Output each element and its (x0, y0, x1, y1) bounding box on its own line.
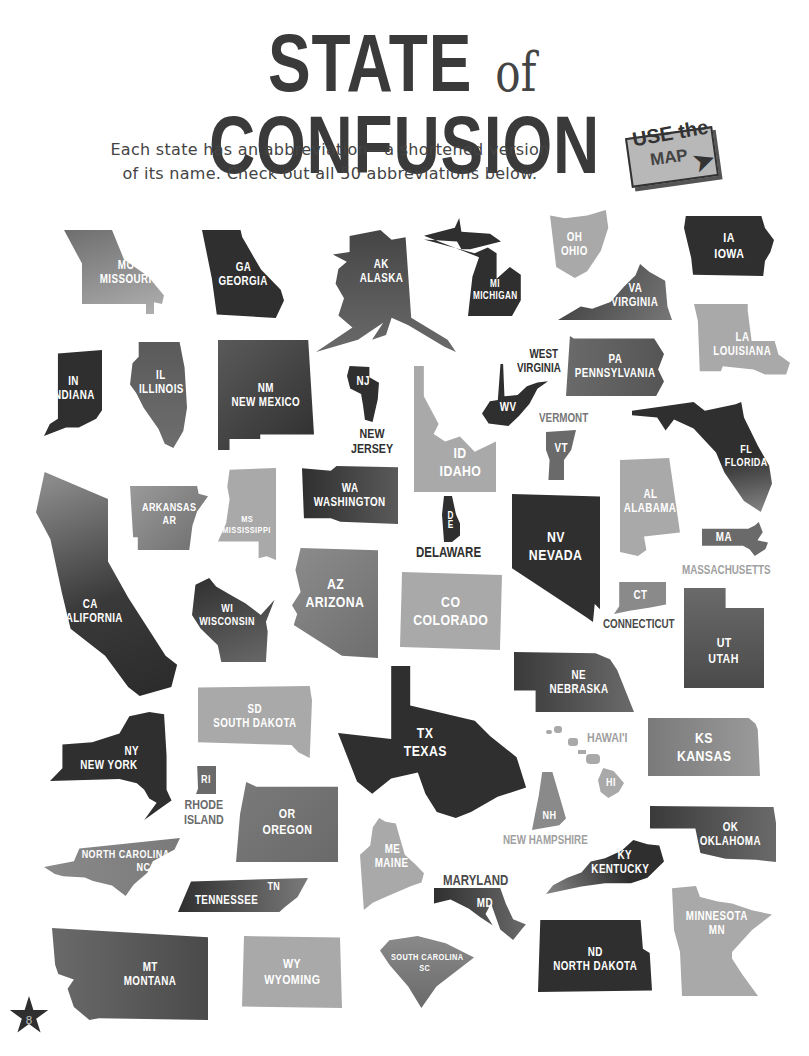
state-name: MISSISSIPPI (223, 525, 271, 536)
state-abbr: AK (373, 257, 388, 271)
state-north-dakota: ND NORTH DAKOTA (538, 920, 652, 992)
state-abbr: TN (268, 880, 281, 893)
state-abbr: FL (740, 443, 752, 456)
virginia-shape (558, 264, 672, 320)
hawaii-islands-icon (546, 726, 602, 770)
state-abbr: NY (125, 744, 139, 758)
rhode-island-label: RHODE ISLAND (184, 798, 224, 828)
state-abbr: AL (643, 487, 657, 501)
state-name: NEVADA (529, 546, 582, 564)
page-number: 8 (26, 1014, 33, 1027)
state-abbr: VT (554, 441, 567, 455)
state-abbr: NE (572, 668, 586, 682)
state-abbr: GA (235, 260, 251, 274)
page-number-star-icon: 8 (9, 996, 49, 1036)
state-name: WASHINGTON (314, 495, 386, 509)
state-wyoming: WY WYOMING (242, 936, 342, 1008)
state-abbr: WI (221, 602, 233, 615)
vermont-label: VERMONT (539, 412, 588, 426)
state-abbr: RI (201, 773, 211, 786)
state-abbr: NM (258, 381, 274, 395)
state-abbr: SC (419, 963, 430, 974)
state-new-york: NY NEW YORK (50, 712, 174, 820)
title-state: STATE (268, 17, 472, 108)
state-illinois: IL ILLINOIS (130, 342, 192, 448)
state-washington: WA WASHINGTON (302, 466, 398, 524)
state-arizona: AZ ARIZONA (292, 548, 378, 658)
state-abbr: OH (566, 230, 582, 244)
state-iowa: IA IOWA (684, 216, 774, 276)
state-name: NEW YORK (80, 758, 137, 772)
state-abbr: PA (608, 352, 622, 366)
state-kentucky: KY KENTUCKY (546, 840, 664, 894)
state-oregon: OR OREGON (236, 782, 338, 862)
state-hawaii: HI (598, 768, 624, 798)
label-line: RHODE (184, 798, 224, 813)
state-north-carolina: NORTH CAROLINA NC (44, 838, 180, 896)
state-name: GEORGIA (218, 274, 267, 288)
minnesota-shape (672, 886, 772, 996)
state-kansas: KS KANSAS (648, 718, 760, 776)
state-new-jersey: NJ (347, 366, 379, 422)
state-name: MONTANA (124, 974, 176, 988)
state-name: MISSOURI (100, 272, 152, 286)
state-montana: MT MONTANA (52, 928, 208, 1020)
state-name: WISCONSIN (199, 615, 255, 628)
state-abbr: NH (542, 809, 556, 822)
state-abbr: VA (628, 281, 642, 295)
massachusetts-shape (702, 522, 768, 556)
state-name: ARIZONA (306, 593, 365, 611)
state-nevada: NV NEVADA (512, 494, 600, 622)
state-pennsylvania: PA PENNSYLVANIA (566, 336, 664, 396)
state-maine: ME MAINE (360, 818, 424, 910)
state-name: MINNESOTA (686, 909, 748, 923)
state-abbr: ME (384, 842, 400, 856)
state-louisiana: LA LOUISIANA (694, 304, 790, 388)
state-south-dakota: SD SOUTH DAKOTA (198, 686, 312, 758)
state-name: IDAHO (439, 462, 481, 480)
state-name: ARKANSAS (142, 501, 196, 514)
state-name: NORTH DAKOTA (553, 959, 637, 973)
state-indiana: IN INDIANA (44, 350, 102, 436)
state-abbr: MI (490, 278, 500, 290)
connecticut-label: CONNECTICUT (603, 618, 675, 632)
state-abbr: IA (723, 230, 734, 246)
state-name: COLORADO (413, 611, 488, 629)
state-name: NEW MEXICO (232, 395, 301, 409)
state-colorado: CO COLORADO (400, 572, 502, 650)
state-abbr: SD (248, 702, 262, 716)
state-abbr: HI (606, 776, 616, 789)
state-abbr: WA (342, 481, 359, 495)
state-abbr: MS (241, 514, 253, 525)
state-new-mexico: NM NEW MEXICO (218, 340, 314, 450)
state-rhode-island: RI (196, 766, 216, 794)
state-name: SOUTH DAKOTA (213, 716, 296, 730)
state-name: PENNSYLVANIA (575, 366, 656, 380)
state-name: IOWA (714, 246, 744, 262)
state-name: NEBRASKA (549, 682, 608, 696)
state-abbr: MA (716, 530, 732, 544)
state-abbr: MT (142, 960, 157, 974)
state-abbr: OK (722, 820, 738, 834)
state-alabama: AL ALABAMA (620, 458, 680, 556)
state-new-hampshire: NH (532, 772, 566, 830)
state-abbr: AZ (326, 575, 343, 593)
state-name: ALASKA (359, 271, 402, 285)
state-missouri: MO MISSOURI (64, 230, 164, 314)
state-abbr: LA (735, 330, 749, 344)
state-name: CALIFORNIA (58, 611, 123, 625)
state-abbr: DE (445, 510, 455, 528)
state-name: TEXAS (403, 742, 446, 760)
label-line: JERSEY (351, 442, 393, 457)
state-abbr: ID (453, 444, 466, 462)
state-abbr: NC (136, 861, 150, 874)
state-name: UTAH (709, 651, 739, 667)
state-name: LOUISIANA (713, 344, 771, 358)
state-name: KANSAS (677, 747, 731, 765)
state-name: WYOMING (264, 972, 320, 988)
state-name: ILLINOIS (139, 382, 184, 396)
state-south-carolina: SOUTH CAROLINA SC (380, 936, 474, 1008)
massachusetts-label: MASSACHUSETTS (682, 564, 771, 578)
label-line: WEST (517, 348, 561, 362)
state-abbr: KY (618, 848, 632, 862)
